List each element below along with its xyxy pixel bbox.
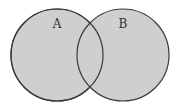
set-b-label: B — [119, 17, 128, 31]
venn-diagram: A B — [0, 0, 179, 111]
set-a-label: A — [52, 17, 62, 31]
